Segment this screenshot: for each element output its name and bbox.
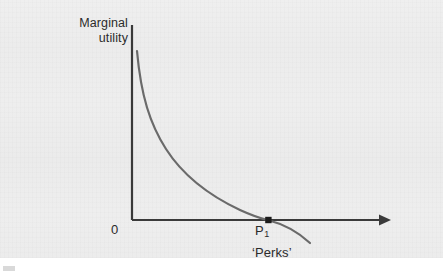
marginal-utility-curve xyxy=(137,51,310,243)
x-axis-arrow-icon xyxy=(379,214,391,225)
y-axis-label: Marginal utility xyxy=(36,16,128,46)
point-p1-base: P xyxy=(255,223,264,238)
origin-label: 0 xyxy=(111,222,118,237)
x-axis-label: ‘Perks’ xyxy=(252,245,292,260)
figure-container: Marginal utility 0 P1 ‘Perks’ xyxy=(0,0,443,277)
y-axis-label-line2: utility xyxy=(99,31,128,45)
point-p1-subscript: 1 xyxy=(264,229,269,239)
point-p1-label: P1 xyxy=(255,223,269,242)
y-axis-label-line1: Marginal xyxy=(79,16,128,30)
